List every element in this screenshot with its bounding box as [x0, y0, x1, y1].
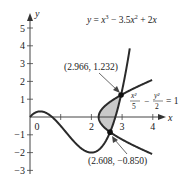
intersection-point-lower — [107, 129, 113, 135]
x-tick-label: 0 — [35, 121, 40, 132]
plot-area: x y 0234 54321−1−2−3 (2.966, 1.232) (2.6… — [0, 0, 191, 183]
annotation-lower-text: (2.608, −0.850) — [88, 156, 147, 167]
y-tick-label: −2 — [14, 147, 25, 158]
x-tick-label: 3 — [120, 121, 125, 132]
y-ticks: 54321−1−2−3 — [14, 23, 33, 176]
annotation-upper-text: (2.966, 1.232) — [64, 62, 118, 73]
x-tick-label: 2 — [89, 121, 94, 132]
y-tick-label: 5 — [20, 23, 25, 34]
cubic-equation-label: y = x3 − 3.5x2 + 2x — [86, 14, 158, 25]
y-tick-label: 1 — [20, 94, 25, 105]
svg-text:= 1: = 1 — [166, 96, 179, 106]
y-axis: y — [27, 8, 40, 174]
y-tick-label: 3 — [20, 58, 25, 69]
y-tick-label: −3 — [14, 165, 25, 176]
shaded-region — [99, 95, 121, 132]
y-tick-label: 4 — [20, 40, 25, 51]
y-tick-label: 2 — [20, 76, 25, 87]
svg-text:−: − — [144, 96, 149, 106]
y-axis-label: y — [34, 8, 40, 19]
x-axis-label: x — [167, 112, 173, 123]
hyperbola-equation-label: x² 5 − y² 2 = 1 — [130, 91, 179, 111]
intersection-point-upper — [118, 92, 124, 98]
svg-text:2: 2 — [155, 102, 159, 111]
x-tick-label: 4 — [150, 121, 155, 132]
annotation-upper: (2.966, 1.232) — [64, 62, 120, 93]
svg-text:y²: y² — [153, 91, 160, 100]
y-tick-label: −1 — [14, 129, 25, 140]
svg-text:x²: x² — [130, 91, 137, 100]
svg-text:5: 5 — [132, 102, 136, 111]
